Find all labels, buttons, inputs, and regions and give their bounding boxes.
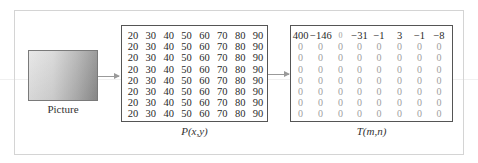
matrix-row: 00000000 xyxy=(291,86,452,97)
matrix-cell: 0 xyxy=(389,86,410,97)
matrix-cell: 90 xyxy=(249,97,267,108)
matrix-cell: 80 xyxy=(231,75,249,86)
matrix-cell: 0 xyxy=(389,52,410,63)
matrix-cell: 0 xyxy=(429,75,449,86)
matrix-cell: 0 xyxy=(291,108,310,119)
matrix-cell: 40 xyxy=(160,30,178,41)
matrix-cell: 0 xyxy=(331,75,350,86)
matrix-cell: 0 xyxy=(350,97,369,108)
matrix-cell: 50 xyxy=(178,64,196,75)
matrix-cell: 20 xyxy=(124,41,142,52)
matrix-cell: 70 xyxy=(213,64,231,75)
matrix-cell: 0 xyxy=(331,108,350,119)
matrix-cell: 0 xyxy=(291,86,310,97)
matrix-cell: 0 xyxy=(331,86,350,97)
matrix-cell: 70 xyxy=(213,97,231,108)
matrix-cell: 0 xyxy=(291,97,310,108)
matrix-cell: 0 xyxy=(429,108,449,119)
matrix-cell: 20 xyxy=(124,108,142,119)
matrix-cell: 0 xyxy=(331,52,350,63)
matrix-cell: 0 xyxy=(310,108,331,119)
arrow-right-icon xyxy=(268,74,289,75)
matrix-row: 00000000 xyxy=(291,52,452,63)
matrix-cell: 20 xyxy=(124,86,142,97)
matrix-cell: 3 xyxy=(389,30,410,41)
matrix-cell: 60 xyxy=(196,64,214,75)
p-matrix-grid: 2030405060708090203040506070809020304050… xyxy=(122,30,267,120)
t-matrix-grid: 400−1460−31−13−1−80000000000000000000000… xyxy=(291,30,452,120)
matrix-row: 00000000 xyxy=(291,108,452,119)
matrix-cell: 90 xyxy=(249,64,267,75)
matrix-cell: 90 xyxy=(249,30,267,41)
picture-image xyxy=(28,50,98,101)
matrix-cell: 0 xyxy=(429,41,449,52)
matrix-cell: 0 xyxy=(389,64,410,75)
matrix-cell: 0 xyxy=(291,52,310,63)
matrix-cell: 0 xyxy=(369,108,389,119)
matrix-cell: 40 xyxy=(160,108,178,119)
matrix-cell: 40 xyxy=(160,41,178,52)
matrix-row: 400−1460−31−13−1−8 xyxy=(291,30,452,41)
matrix-row: 2030405060708090 xyxy=(122,41,267,52)
matrix-cell: 70 xyxy=(213,30,231,41)
matrix-cell: −1 xyxy=(369,30,389,41)
matrix-cell: 30 xyxy=(142,52,160,63)
matrix-cell: 0 xyxy=(350,52,369,63)
matrix-cell: −31 xyxy=(350,30,369,41)
picture-label: Picture xyxy=(28,103,98,115)
matrix-cell: 0 xyxy=(331,97,350,108)
t-matrix-box: 400−1460−31−13−1−80000000000000000000000… xyxy=(290,25,453,122)
matrix-cell: 20 xyxy=(124,52,142,63)
matrix-cell: 90 xyxy=(249,75,267,86)
matrix-cell: 0 xyxy=(369,64,389,75)
matrix-cell: 0 xyxy=(350,41,369,52)
matrix-cell: 0 xyxy=(389,108,410,119)
matrix-cell: 90 xyxy=(249,41,267,52)
matrix-cell: 80 xyxy=(231,97,249,108)
matrix-cell: 0 xyxy=(350,75,369,86)
matrix-cell: 60 xyxy=(196,52,214,63)
matrix-cell: 0 xyxy=(369,52,389,63)
matrix-cell: 30 xyxy=(142,75,160,86)
matrix-cell: 0 xyxy=(369,75,389,86)
matrix-cell: 30 xyxy=(142,97,160,108)
matrix-row: 00000000 xyxy=(291,64,452,75)
matrix-cell: −1 xyxy=(410,30,429,41)
matrix-cell: 40 xyxy=(160,64,178,75)
p-matrix-label: P(x,y) xyxy=(121,125,268,137)
matrix-cell: 40 xyxy=(160,52,178,63)
matrix-cell: 80 xyxy=(231,64,249,75)
matrix-cell: 80 xyxy=(231,41,249,52)
matrix-cell: 0 xyxy=(350,108,369,119)
matrix-cell: 90 xyxy=(249,52,267,63)
matrix-cell: 20 xyxy=(124,30,142,41)
matrix-cell: 20 xyxy=(124,64,142,75)
matrix-cell: 30 xyxy=(142,108,160,119)
matrix-cell: −8 xyxy=(429,30,449,41)
matrix-row: 2030405060708090 xyxy=(122,97,267,108)
matrix-cell: 0 xyxy=(389,75,410,86)
matrix-cell: 0 xyxy=(310,52,331,63)
matrix-cell: 0 xyxy=(410,41,429,52)
matrix-cell: 0 xyxy=(291,64,310,75)
matrix-row: 00000000 xyxy=(291,41,452,52)
matrix-cell: 0 xyxy=(369,41,389,52)
matrix-cell: 40 xyxy=(160,75,178,86)
matrix-cell: 30 xyxy=(142,30,160,41)
matrix-cell: 50 xyxy=(178,30,196,41)
matrix-cell: 40 xyxy=(160,97,178,108)
matrix-cell: 0 xyxy=(429,64,449,75)
matrix-cell: 50 xyxy=(178,41,196,52)
matrix-cell: 30 xyxy=(142,64,160,75)
matrix-row: 2030405060708090 xyxy=(122,30,267,41)
matrix-cell: 0 xyxy=(410,52,429,63)
matrix-cell: 50 xyxy=(178,52,196,63)
matrix-cell: 30 xyxy=(142,86,160,97)
matrix-cell: 70 xyxy=(213,41,231,52)
matrix-cell: 0 xyxy=(429,97,449,108)
matrix-cell: 20 xyxy=(124,75,142,86)
matrix-cell: 50 xyxy=(178,97,196,108)
matrix-row: 2030405060708090 xyxy=(122,52,267,63)
matrix-cell: 0 xyxy=(410,108,429,119)
matrix-cell: 60 xyxy=(196,97,214,108)
